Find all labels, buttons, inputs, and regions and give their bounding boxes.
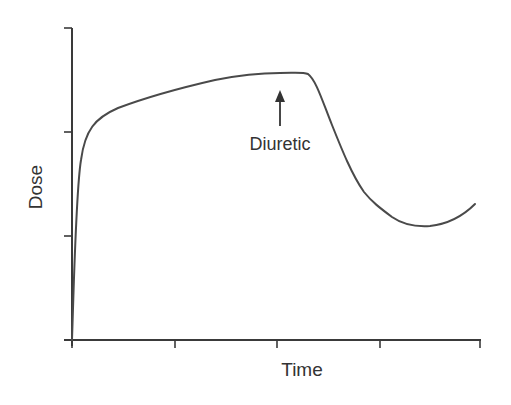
diuretic-annotation: Diuretic [249,90,310,154]
dose-time-chart: Diuretic Time Dose [0,0,511,405]
dose-curve [72,73,475,340]
diuretic-label: Diuretic [249,134,310,154]
y-axis-title: Dose [25,165,46,209]
arrow-head-icon [275,90,285,102]
y-axis [64,28,72,346]
x-axis-title: Time [281,359,323,380]
x-axis [64,340,481,348]
